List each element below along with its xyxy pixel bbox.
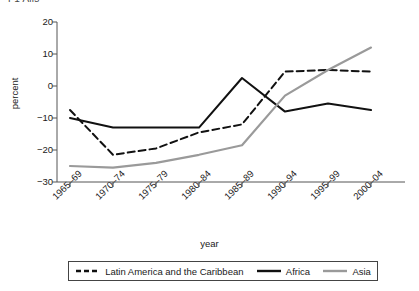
series-line-asia <box>70 48 371 168</box>
plot-area <box>0 0 419 291</box>
legend-item-label: Latin America and the Caribbean <box>105 266 243 277</box>
dashed-line-swatch <box>75 266 101 276</box>
series-line-africa <box>70 78 371 128</box>
chart-figure: F1 Alls percent 20100−10−20−30 1965–6919… <box>0 0 419 291</box>
legend-item-label: Africa <box>286 266 310 277</box>
chart-legend: Latin America and the CaribbeanAfricaAsi… <box>68 261 378 281</box>
solid-line-swatch <box>322 266 348 276</box>
series-line-latin-america-and-the-caribbean <box>70 70 371 155</box>
legend-item[interactable]: Asia <box>322 266 370 277</box>
solid-line-swatch <box>256 266 282 276</box>
legend-item[interactable]: Africa <box>256 266 310 277</box>
legend-item-label: Asia <box>352 266 370 277</box>
legend-item[interactable]: Latin America and the Caribbean <box>75 266 243 277</box>
